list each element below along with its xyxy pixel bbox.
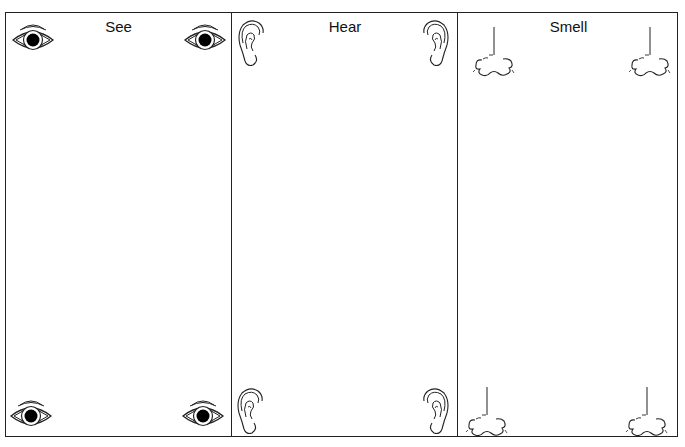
eye-icon <box>10 397 52 433</box>
see-column: See <box>6 13 231 436</box>
eye-icon <box>12 21 54 57</box>
senses-worksheet: See Hear Smell <box>5 12 678 437</box>
ear-icon <box>422 19 450 69</box>
ear-icon <box>236 387 264 437</box>
ear-icon <box>422 387 450 437</box>
nose-icon <box>628 25 672 79</box>
nose-icon <box>465 385 509 439</box>
eye-icon <box>184 21 226 57</box>
ear-icon <box>237 19 265 69</box>
hear-column: Hear <box>231 13 458 436</box>
nose-icon <box>472 25 516 79</box>
smell-column: Smell <box>457 13 679 436</box>
nose-icon <box>625 385 669 439</box>
eye-icon <box>182 397 224 433</box>
